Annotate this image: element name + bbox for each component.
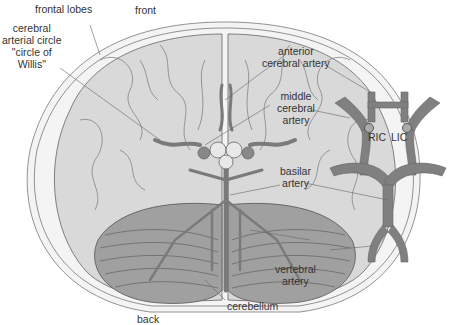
label-line: Willis" [2,58,62,70]
label-line: anterior [262,45,330,57]
label-circle-willis: cerebral arterial circle "circle of Will… [2,22,62,70]
label-line: basilar [280,165,311,177]
label-frontal-lobes: frontal lobes [35,3,92,15]
brain-illustration [0,0,450,325]
label-line: vertebral [275,263,316,275]
label-front: front [135,4,156,16]
label-line: cerebral [2,22,62,34]
label-line: artery [277,114,315,126]
label-ric: RIC [368,131,386,143]
diagram-canvas: frontal lobes front cerebral arterial ci… [0,0,450,325]
label-cerebellum: cerebellum [227,300,278,312]
label-back: back [137,313,159,325]
label-anterior-cerebral-artery: anterior cerebral artery [262,45,330,69]
label-line: middle [277,90,315,102]
label-basilar-artery: basilar artery [280,165,311,189]
label-lic: LIC [391,131,407,143]
label-vertebral-artery: vertebral artery [275,263,316,287]
label-line: cerebral [277,102,315,114]
label-line: arterial circle [2,34,62,46]
label-line: cerebral artery [262,57,330,69]
label-line: "circle of [2,46,62,58]
label-middle-cerebral-artery: middle cerebral artery [277,90,315,126]
label-line: artery [275,275,316,287]
label-line: artery [280,177,311,189]
